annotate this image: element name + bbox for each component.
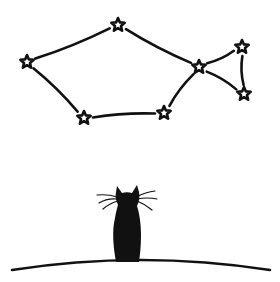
constellation-line	[207, 72, 237, 90]
star-icon	[77, 111, 90, 124]
constellation-line	[33, 68, 77, 111]
star-icon	[111, 18, 124, 31]
star-icon	[20, 55, 33, 68]
illustration-canvas	[0, 0, 280, 282]
constellation-line	[93, 113, 155, 117]
star-icon	[235, 40, 248, 53]
star-icon	[237, 87, 250, 100]
constellation-line	[35, 28, 109, 58]
constellation-line	[169, 74, 193, 106]
illustration	[0, 0, 280, 282]
constellation-line	[241, 56, 243, 85]
hill-horizon	[12, 260, 270, 270]
star-icon	[192, 60, 205, 73]
constellation-line	[126, 29, 191, 63]
constellation-lines	[33, 28, 243, 117]
star-icon	[157, 106, 170, 119]
constellation-line	[207, 51, 234, 63]
cat-silhouette-icon	[97, 185, 157, 262]
